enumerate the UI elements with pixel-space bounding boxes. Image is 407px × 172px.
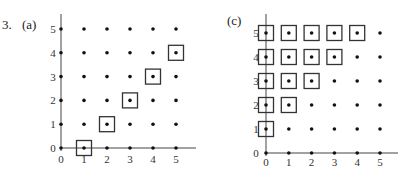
lattice-point xyxy=(287,127,291,131)
lattice-point xyxy=(310,79,314,83)
x-tick-label: 4 xyxy=(354,156,360,168)
lattice-point xyxy=(82,99,86,103)
lattice-point xyxy=(105,122,109,126)
lattice-point xyxy=(264,79,268,83)
lattice-point xyxy=(151,99,155,103)
x-tick-label: 0 xyxy=(58,153,64,165)
x-tick-label: 2 xyxy=(104,153,110,165)
plot-title: (a) xyxy=(22,17,36,32)
lattice-point xyxy=(151,27,155,31)
lattice-point xyxy=(264,31,268,35)
problem-label: 3. xyxy=(2,17,12,32)
lattice-point xyxy=(378,151,382,155)
lattice-point xyxy=(355,55,359,59)
x-tick-label: 4 xyxy=(150,153,156,165)
lattice-point xyxy=(105,99,109,103)
y-tick-label: 1 xyxy=(50,118,56,130)
lattice-point xyxy=(287,55,291,59)
lattice-point xyxy=(59,51,63,55)
x-tick-label: 3 xyxy=(332,156,338,168)
x-tick-label: 1 xyxy=(286,156,292,168)
lattice-point xyxy=(355,127,359,131)
lattice-point xyxy=(174,27,178,31)
lattice-point xyxy=(264,103,268,107)
lattice-point xyxy=(82,27,86,31)
lattice-point xyxy=(355,151,359,155)
lattice-point xyxy=(59,27,63,31)
y-tick-label: 2 xyxy=(50,94,56,106)
lattice-point xyxy=(378,103,382,107)
figure-canvas: 3. (a)012345012345 (c)012345012345 xyxy=(0,0,407,172)
x-tick-label: 5 xyxy=(173,153,179,165)
lattice-point xyxy=(174,75,178,79)
lattice-point xyxy=(128,122,132,126)
lattice-point xyxy=(378,55,382,59)
lattice-point xyxy=(310,55,314,59)
lattice-point xyxy=(333,127,337,131)
lattice-point xyxy=(59,99,63,103)
lattice-point xyxy=(82,146,86,150)
lattice-point xyxy=(310,151,314,155)
y-tick-label: 0 xyxy=(50,142,56,154)
lattice-point xyxy=(287,79,291,83)
lattice-point xyxy=(59,146,63,150)
lattice-point xyxy=(378,79,382,83)
lattice-point xyxy=(128,51,132,55)
lattice-point xyxy=(82,51,86,55)
lattice-point xyxy=(128,146,132,150)
lattice-point xyxy=(174,122,178,126)
lattice-point xyxy=(333,103,337,107)
lattice-point xyxy=(333,151,337,155)
y-tick-label: 4 xyxy=(50,47,56,59)
lattice-point xyxy=(310,127,314,131)
lattice-point xyxy=(355,31,359,35)
lattice-point xyxy=(151,146,155,150)
lattice-point xyxy=(355,79,359,83)
y-tick-label: 5 xyxy=(50,23,56,35)
lattice-point xyxy=(174,146,178,150)
lattice-point xyxy=(310,103,314,107)
lattice-point xyxy=(333,55,337,59)
lattice-point xyxy=(82,75,86,79)
lattice-point xyxy=(378,127,382,131)
lattice-point xyxy=(128,75,132,79)
lattice-point xyxy=(151,75,155,79)
plot-a: (a)012345012345 xyxy=(22,14,196,165)
lattice-point xyxy=(174,51,178,55)
lattice-point xyxy=(59,75,63,79)
lattice-point xyxy=(128,99,132,103)
lattice-point xyxy=(287,103,291,107)
lattice-point xyxy=(128,27,132,31)
lattice-point xyxy=(310,31,314,35)
lattice-point xyxy=(264,151,268,155)
lattice-point xyxy=(151,122,155,126)
x-tick-label: 0 xyxy=(263,156,269,168)
x-tick-label: 3 xyxy=(127,153,133,165)
x-tick-label: 1 xyxy=(81,153,87,165)
lattice-point xyxy=(105,27,109,31)
lattice-point xyxy=(105,75,109,79)
lattice-point xyxy=(333,79,337,83)
plot-title: (c) xyxy=(227,13,241,28)
lattice-point xyxy=(355,103,359,107)
lattice-point xyxy=(287,31,291,35)
lattice-point xyxy=(264,55,268,59)
y-tick-label: 3 xyxy=(50,71,56,83)
y-tick-label: 0 xyxy=(253,147,259,159)
lattice-point xyxy=(82,122,86,126)
lattice-point xyxy=(105,146,109,150)
x-tick-label: 5 xyxy=(377,156,383,168)
lattice-point xyxy=(333,31,337,35)
lattice-point xyxy=(151,51,155,55)
plot-c: (c)012345012345 xyxy=(227,13,398,168)
lattice-point xyxy=(59,122,63,126)
lattice-point xyxy=(378,31,382,35)
x-tick-label: 2 xyxy=(309,156,315,168)
lattice-point xyxy=(287,151,291,155)
lattice-point xyxy=(105,51,109,55)
lattice-point xyxy=(174,99,178,103)
lattice-point xyxy=(264,127,268,131)
